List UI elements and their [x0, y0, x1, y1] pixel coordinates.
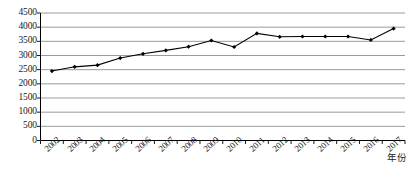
data-point-marker [323, 34, 327, 38]
x-axis-title: 年份 [387, 154, 407, 164]
data-point-markers [50, 26, 396, 73]
data-point-marker [300, 34, 304, 38]
line-chart: 050010001500200025003000350040004500 200… [0, 0, 413, 177]
data-point-marker [118, 56, 122, 60]
data-point-marker [186, 45, 190, 49]
data-point-marker [346, 34, 350, 38]
data-point-marker [73, 65, 77, 69]
data-point-marker [95, 63, 99, 67]
data-point-marker [209, 38, 213, 42]
gridlines [37, 13, 405, 141]
data-series-line [52, 29, 394, 72]
data-point-marker [164, 48, 168, 52]
data-point-marker [278, 35, 282, 39]
